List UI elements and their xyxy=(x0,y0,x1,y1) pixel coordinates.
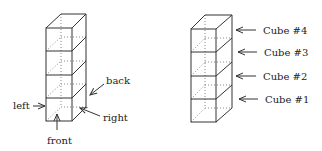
right-arrow-icon xyxy=(80,108,100,116)
label-cube-3: Cube #3 xyxy=(264,47,308,58)
back-arrow-icon xyxy=(90,84,104,95)
label-cube-1: Cube #1 xyxy=(265,94,309,105)
label-front: front xyxy=(47,135,72,146)
right-arrows xyxy=(236,30,258,99)
label-back: back xyxy=(106,75,131,86)
left-cube-stack xyxy=(46,14,86,121)
label-cube-2: Cube #2 xyxy=(263,71,307,82)
diagram: back left right front Cube #4 Cube #3 Cu… xyxy=(0,0,322,151)
left-arrows xyxy=(33,84,104,130)
label-left: left xyxy=(13,100,30,111)
label-cube-4: Cube #4 xyxy=(263,25,307,36)
right-cube-stack xyxy=(191,15,232,122)
label-right: right xyxy=(103,112,128,123)
